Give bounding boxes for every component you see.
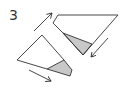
fold-diagram — [0, 0, 125, 93]
arrow-down-right-icon — [29, 70, 51, 81]
lower-shaded-flap — [47, 60, 72, 76]
lower-folded-paper — [17, 35, 72, 76]
upper-folded-paper — [53, 15, 118, 55]
upper-shaded-flap — [63, 33, 92, 55]
arrow-up-right-icon — [34, 13, 52, 31]
arrow-down-left-icon — [91, 38, 108, 57]
